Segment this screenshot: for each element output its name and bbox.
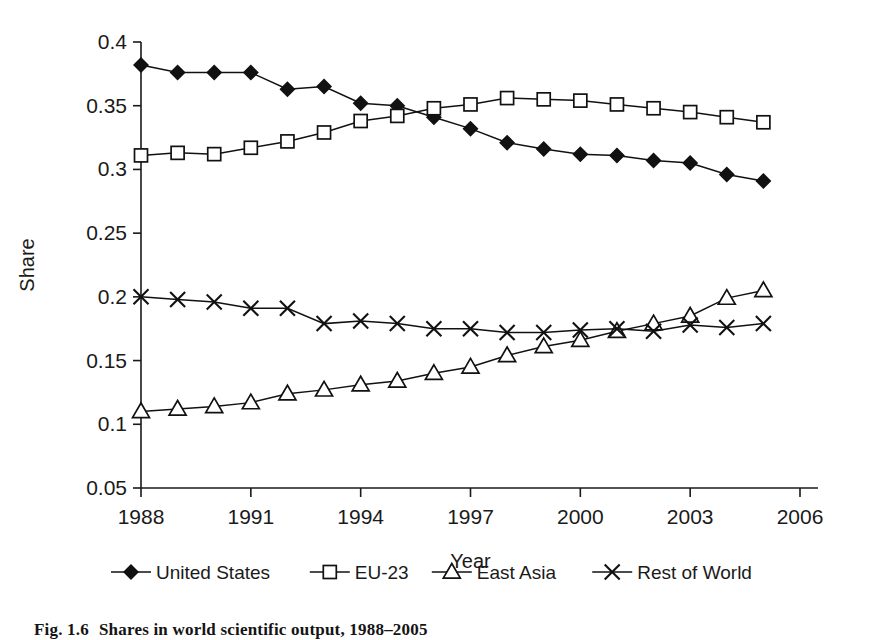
data-point-marker — [537, 93, 550, 106]
y-axis-title: Share — [16, 238, 38, 291]
data-point-marker — [755, 282, 772, 297]
data-point-marker — [756, 174, 770, 188]
legend-label: East Asia — [477, 562, 557, 583]
series-line — [141, 290, 763, 411]
data-point-marker — [133, 403, 150, 418]
caption-number: Fig. 1.6 — [34, 620, 89, 639]
series-line — [141, 65, 763, 181]
y-tick-label: 0.35 — [86, 94, 127, 117]
figure-caption: Fig. 1.6Shares in world scientific outpu… — [34, 620, 428, 640]
data-point-marker — [500, 136, 514, 150]
legend-marker — [323, 566, 336, 579]
data-point-marker — [318, 126, 331, 139]
legend-label: EU-23 — [355, 562, 409, 583]
x-tick-label: 1991 — [227, 505, 274, 528]
caption-text: Shares in world scientific output, 1988–… — [99, 620, 428, 639]
x-tick-label: 2000 — [557, 505, 604, 528]
figure-container: 0.050.10.150.20.250.30.350.4198819911994… — [0, 0, 872, 640]
data-point-marker — [244, 141, 257, 154]
x-tick-label: 2003 — [667, 505, 714, 528]
data-point-marker — [573, 147, 587, 161]
data-point-marker — [647, 154, 661, 168]
data-point-marker — [169, 400, 186, 415]
data-point-marker — [354, 96, 368, 110]
data-point-marker — [464, 98, 477, 111]
legend-marker — [124, 565, 138, 579]
data-point-marker — [537, 142, 551, 156]
data-point-marker — [464, 122, 478, 136]
data-point-marker — [647, 102, 660, 115]
y-tick-label: 0.15 — [86, 349, 127, 372]
data-point-marker — [208, 148, 221, 161]
series-line — [141, 98, 763, 155]
data-point-marker — [757, 116, 770, 129]
data-point-marker — [683, 156, 697, 170]
data-point-marker — [171, 66, 185, 80]
data-point-marker — [391, 109, 404, 122]
x-tick-label: 2006 — [777, 505, 824, 528]
x-tick-label: 1994 — [337, 505, 384, 528]
data-point-marker — [171, 146, 184, 159]
data-point-marker — [720, 168, 734, 182]
data-point-marker — [720, 111, 733, 124]
x-tick-label: 1988 — [118, 505, 165, 528]
data-point-marker — [207, 66, 221, 80]
y-tick-label: 0.1 — [98, 412, 127, 435]
data-point-marker — [501, 92, 514, 105]
legend-label: Rest of World — [637, 562, 752, 583]
data-point-marker — [574, 94, 587, 107]
x-tick-label: 1997 — [447, 505, 494, 528]
y-tick-label: 0.4 — [98, 30, 128, 53]
data-point-marker — [427, 102, 440, 115]
y-tick-label: 0.2 — [98, 285, 127, 308]
data-point-marker — [244, 66, 258, 80]
data-point-marker — [684, 106, 697, 119]
data-point-marker — [354, 115, 367, 128]
y-tick-label: 0.25 — [86, 221, 127, 244]
data-point-marker — [135, 149, 148, 162]
series-line — [141, 297, 763, 333]
data-point-marker — [280, 82, 294, 96]
legend-label: United States — [156, 562, 270, 583]
y-tick-label: 0.3 — [98, 157, 127, 180]
data-point-marker — [610, 98, 623, 111]
data-point-marker — [134, 58, 148, 72]
data-point-marker — [317, 80, 331, 94]
data-point-marker — [610, 148, 624, 162]
y-tick-label: 0.05 — [86, 476, 127, 499]
data-point-marker — [281, 135, 294, 148]
line-chart: 0.050.10.150.20.250.30.350.4198819911994… — [0, 0, 872, 600]
